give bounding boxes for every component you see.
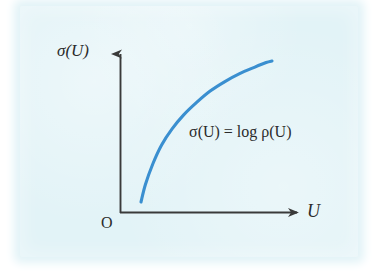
figure-container: σ(U) U O σ(U) = log ρ(U) — [0, 0, 373, 271]
curve-equation-annotation: σ(U) = log ρ(U) — [189, 124, 292, 140]
origin-label: O — [101, 215, 113, 231]
y-axis-label: σ(U) — [57, 42, 89, 59]
x-axis-label: U — [307, 202, 320, 220]
plot-canvas — [0, 0, 373, 271]
